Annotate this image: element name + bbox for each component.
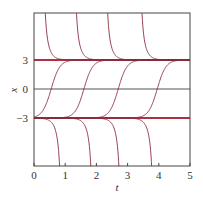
- y-tick-label: 0: [23, 83, 29, 95]
- solution-curve: [34, 118, 63, 200]
- y-axis-label: x: [7, 87, 19, 93]
- solution-curve: [73, 0, 190, 60]
- solution-curve: [34, 118, 155, 200]
- y-tick-label: −3: [16, 112, 28, 124]
- solution-curve: [34, 118, 122, 200]
- plot-area: [34, 0, 190, 200]
- x-tick-label: 2: [94, 169, 100, 181]
- solution-curve: [34, 118, 94, 200]
- solution-curve: [34, 60, 190, 117]
- x-tick-label: 1: [62, 169, 68, 181]
- x-axis-label: t: [115, 181, 119, 193]
- x-tick-label: 3: [125, 169, 131, 181]
- x-tick-label: 0: [31, 169, 37, 181]
- solution-curve: [139, 0, 190, 60]
- x-tick-label: 4: [156, 169, 162, 181]
- solution-curve: [42, 0, 190, 60]
- y-tick-label: 3: [23, 54, 29, 66]
- x-tick-label: 5: [187, 169, 193, 181]
- chart: 01234530−3tx: [0, 0, 203, 200]
